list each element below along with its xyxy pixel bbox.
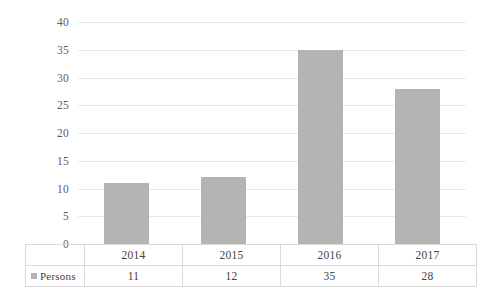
y-axis-tick-15: 15 [57,155,69,167]
y-axis-tick-10: 10 [57,183,69,195]
bar-2017 [395,89,440,244]
table-cell-category-2016: 2016 [281,245,379,266]
y-axis-tick-5: 5 [63,210,69,222]
bar-2015 [201,177,246,244]
bar-2014 [104,183,149,244]
bar-chart-figure: 0510152025303540 2014201520162017 Person… [0,0,485,301]
table-cell-value-2015: 12 [183,266,281,287]
table-cell-category-2014: 2014 [85,245,183,266]
y-axis-tick-30: 30 [57,72,69,84]
table-cell-value-2017: 28 [379,266,477,287]
y-axis: 0510152025303540 [0,0,78,266]
chart-data-table: 2014201520162017 Persons 11123528 [25,244,477,287]
bars-layer [78,22,466,244]
table-row-categories: 2014201520162017 [26,245,477,266]
table-cell-value-2016: 35 [281,266,379,287]
table-cell-value-2014: 11 [85,266,183,287]
y-axis-tick-25: 25 [57,99,69,111]
y-axis-tick-40: 40 [57,16,69,28]
y-axis-tick-20: 20 [57,127,69,139]
square-marker-icon [31,273,37,279]
table-cell-category-2015: 2015 [183,245,281,266]
bar-2016 [298,50,343,244]
legend-entry-persons: Persons [26,266,85,287]
table-cell-category-2017: 2017 [379,245,477,266]
legend-label: Persons [40,271,76,283]
table-row-values: Persons 11123528 [26,266,477,287]
y-axis-tick-35: 35 [57,44,69,56]
table-corner-cell [26,245,85,266]
